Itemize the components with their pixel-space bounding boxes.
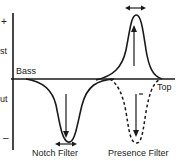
baseline-top-label: Top [157, 83, 172, 92]
notch-width-right-head-icon [72, 142, 77, 147]
baseline-bass-label: Bass [16, 67, 36, 76]
axis-boost-label: st [0, 47, 7, 56]
notch-filter-curve [26, 79, 114, 142]
eq-filter-diagram: + st Bass ut – Top Notch Filter Presence… [0, 0, 185, 161]
notch-width-left-head-icon [55, 142, 60, 147]
filter-response-graph [0, 0, 185, 161]
presence-filter-label: Presence Filter [108, 149, 169, 158]
presence-filter-peak-curve [96, 15, 162, 80]
notch-filter-label: Notch Filter [32, 149, 78, 158]
axis-plus-label: + [1, 17, 7, 27]
presence-arrow-head-icon [131, 25, 137, 32]
axis-minus-label: – [3, 133, 9, 143]
presence-width-right-head-icon [141, 6, 146, 11]
presence-width-left-head-icon [125, 6, 130, 11]
axis-cut-label: ut [0, 95, 8, 104]
presence-cut-arrow-head-icon [133, 130, 139, 137]
